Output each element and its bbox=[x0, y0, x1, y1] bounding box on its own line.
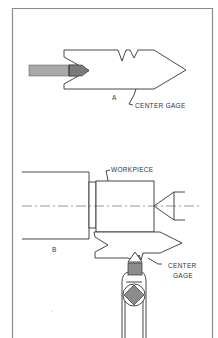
part-a: A CENTER GAGE bbox=[29, 50, 186, 109]
workpiece-callout: WORKPIECE bbox=[111, 166, 154, 173]
center-gage-callout-b-line1: CENTER bbox=[168, 262, 197, 269]
center-gage-callout-a: CENTER GAGE bbox=[135, 102, 186, 109]
part-a-label: A bbox=[112, 94, 117, 101]
chuck-collar bbox=[89, 182, 96, 228]
workpiece-leader bbox=[106, 170, 110, 181]
center-gage-leader-b bbox=[148, 258, 162, 264]
tool-bit-shank bbox=[29, 65, 70, 76]
part-b-label: B bbox=[52, 246, 57, 253]
part-b: WORKPIECE B CENTER GAGE bbox=[22, 166, 200, 338]
tool-bit-square bbox=[128, 263, 142, 275]
workpiece bbox=[96, 181, 154, 232]
center-gage-diagram: A CENTER GAGE WORKPIECE B CENTER GAGE bbox=[0, 0, 218, 338]
center-gage-callout-b-line2: GAGE bbox=[173, 272, 193, 279]
chuck-body bbox=[22, 172, 89, 239]
speck bbox=[51, 310, 52, 311]
